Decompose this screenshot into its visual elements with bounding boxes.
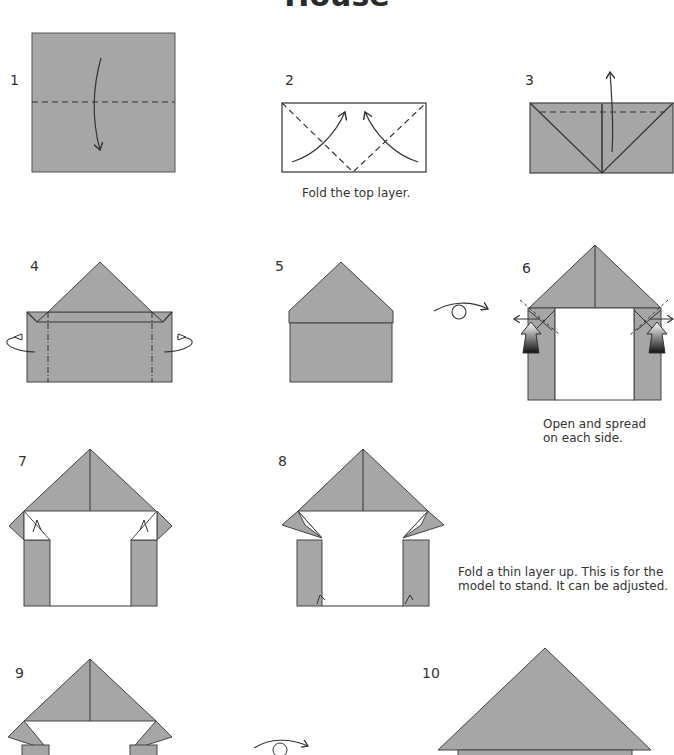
step-3-diagram [530, 72, 673, 173]
step-10-diagram [438, 648, 651, 755]
step-2-diagram [282, 103, 426, 172]
step-7-diagram [9, 449, 172, 606]
step-6-diagram [514, 245, 673, 400]
step-4-diagram [7, 262, 192, 382]
step-9-diagram [8, 659, 308, 755]
step-5-diagram [289, 262, 488, 382]
step-8-diagram [282, 449, 444, 606]
step-1-diagram [32, 33, 175, 172]
diagram-canvas [0, 0, 674, 755]
